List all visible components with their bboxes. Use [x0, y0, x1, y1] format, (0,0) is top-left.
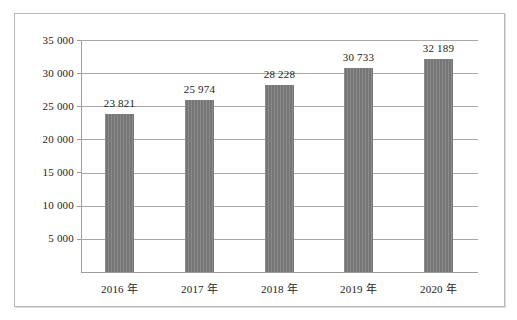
- bar-2016[interactable]: [105, 114, 134, 272]
- ytick-label-20000: 20 000: [14, 134, 74, 145]
- gridline-35000: [81, 40, 478, 41]
- bar-2019[interactable]: [344, 68, 373, 272]
- xtick-label-2020: 2020 年: [402, 283, 475, 295]
- ytick-label-30000: 30 000: [14, 68, 74, 79]
- bar-2020[interactable]: [424, 59, 453, 272]
- bar-value-label-2017: 25 974: [163, 84, 236, 95]
- xtick-label-2017: 2017 年: [163, 283, 236, 295]
- xtick-label-2019: 2019 年: [322, 283, 395, 295]
- ytick-label-15000: 15 000: [14, 167, 74, 178]
- bar-value-label-2020: 32 189: [402, 43, 475, 54]
- x-axis-line: [81, 272, 478, 273]
- ytick-label-25000: 25 000: [14, 101, 74, 112]
- ytick-label-35000: 35 000: [14, 35, 74, 46]
- bar-2017[interactable]: [185, 100, 214, 272]
- bar-value-label-2016: 23 821: [83, 98, 156, 109]
- ytick-label-5000: 5 000: [14, 233, 74, 244]
- bar-2018[interactable]: [265, 85, 294, 272]
- bar-value-label-2018: 28 228: [243, 69, 316, 80]
- xtick-label-2018: 2018 年: [243, 283, 316, 295]
- xtick-label-2016: 2016 年: [83, 283, 156, 295]
- ytick-label-10000: 10 000: [14, 200, 74, 211]
- bar-value-label-2019: 30 733: [322, 52, 395, 63]
- plot-area: 23 821 25 974 28 228 30 733 32 189: [81, 40, 478, 272]
- chart-figure: 35 000 30 000 25 000 20 000 15 000 10 00…: [0, 0, 517, 320]
